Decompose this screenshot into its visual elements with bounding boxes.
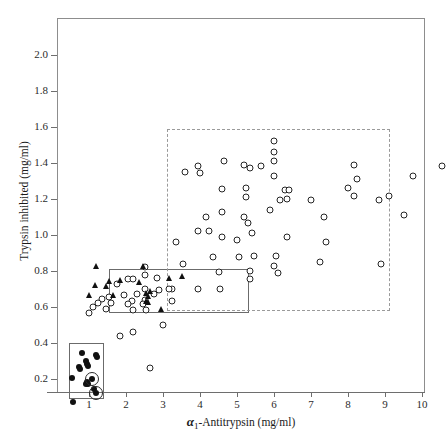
group-box-mm-box	[167, 129, 390, 311]
y-tick-1.4	[51, 163, 57, 164]
x-tick-4	[200, 392, 201, 397]
data-point-normal-MM-8	[271, 172, 278, 179]
data-point-heterozygote-MZ-24	[143, 306, 150, 313]
data-point-normal-MM-25	[376, 196, 383, 203]
data-point-heterozygote-MZ-18	[108, 300, 115, 307]
data-point-normal-MM-1	[271, 149, 278, 156]
data-point-normal-MM-51	[215, 268, 222, 275]
data-point-normal-MM-4	[195, 162, 202, 169]
data-point-heterozygote-triangle-16	[158, 306, 164, 312]
data-point-normal-MM-47	[271, 262, 278, 269]
y-tick-label-0.2: 0.2	[14, 372, 48, 384]
x-tick-10	[422, 392, 423, 397]
data-point-normal-MM-48	[317, 259, 324, 266]
data-point-normal-MM-33	[400, 212, 407, 219]
data-point-homozygote-ZZ-8	[69, 375, 75, 381]
data-point-normal-MM-11	[350, 161, 357, 168]
data-point-normal-MM-36	[219, 233, 226, 240]
data-point-normal-MM-20	[285, 187, 292, 194]
x-tick-label-5: 5	[222, 398, 252, 410]
data-point-normal-MM-27	[219, 208, 226, 215]
data-point-heterozygote-MZ-8	[165, 286, 172, 293]
data-point-normal-MM-57	[130, 329, 137, 336]
data-point-heterozygote-MZ-11	[121, 292, 128, 299]
data-point-normal-MM-55	[195, 286, 202, 293]
data-point-heterozygote-triangle-5	[136, 279, 142, 285]
x-tick-label-6: 6	[259, 398, 289, 410]
data-point-normal-MM-6	[258, 162, 265, 169]
x-tick-label-10: 10	[407, 398, 437, 410]
data-point-highlighted-ZZ-rings-1	[89, 386, 103, 400]
data-point-normal-MM-45	[209, 253, 216, 260]
data-point-normal-MM-31	[267, 206, 274, 213]
data-point-normal-MM-22	[308, 196, 315, 203]
data-point-normal-MM-12	[439, 162, 446, 169]
data-point-normal-MM-2	[271, 158, 278, 165]
y-tick-0.6	[51, 307, 57, 308]
data-point-normal-MM-24	[385, 193, 392, 200]
data-point-normal-MM-60	[117, 332, 124, 339]
data-point-heterozygote-triangle-8	[103, 283, 109, 289]
data-point-normal-MM-59	[147, 365, 154, 372]
y-tick-label-0.6: 0.6	[14, 300, 48, 312]
y-tick-0.2	[51, 379, 57, 380]
data-point-normal-MM-52	[246, 276, 253, 283]
data-point-heterozygote-triangle-11	[147, 288, 153, 294]
data-point-normal-MM-10	[197, 169, 204, 176]
x-tick-3	[163, 392, 164, 397]
data-point-normal-MM-34	[195, 228, 202, 235]
data-point-normal-MM-41	[322, 239, 329, 246]
x-axis-title-rest: -Antitrypsin (mg/ml)	[198, 416, 295, 428]
data-point-normal-MM-16	[243, 194, 250, 201]
data-point-heterozygote-triangle-12	[86, 292, 92, 298]
x-tick-label-2: 2	[111, 398, 141, 410]
data-point-heterozygote-MZ-23	[130, 306, 137, 313]
x-tick-label-7: 7	[296, 398, 326, 410]
x-tick-label-8: 8	[333, 398, 363, 410]
data-point-normal-MM-13	[354, 176, 361, 183]
y-tick-label-0.4: 0.4	[14, 336, 48, 348]
data-point-normal-MM-49	[378, 260, 385, 267]
data-point-normal-MM-32	[320, 214, 327, 221]
data-point-normal-MM-21	[276, 196, 283, 203]
data-point-heterozygote-MZ-2	[154, 275, 161, 282]
data-point-normal-MM-37	[234, 236, 241, 243]
y-tick-0.4	[51, 343, 57, 344]
data-point-heterozygote-MZ-9	[134, 291, 141, 298]
alpha-symbol: α	[187, 414, 194, 429]
data-point-normal-MM-56	[217, 286, 224, 293]
data-point-normal-MM-39	[172, 239, 179, 246]
x-tick-6	[274, 392, 275, 397]
data-point-normal-MM-38	[248, 230, 255, 237]
data-point-normal-MM-53	[274, 269, 281, 276]
data-point-homozygote-ZZ-15	[70, 399, 76, 405]
data-point-homozygote-ZZ-2	[94, 354, 100, 360]
x-tick-label-3: 3	[148, 398, 178, 410]
x-axis-title: α1-Antitrypsin (mg/ml)	[57, 414, 425, 431]
y-tick-1.6	[51, 127, 57, 128]
x-tick-label-4: 4	[185, 398, 215, 410]
y-tick-1.8	[51, 91, 57, 92]
data-point-heterozygote-MZ-16	[169, 297, 176, 304]
data-point-heterozygote-triangle-0	[93, 263, 99, 269]
x-tick-2	[126, 392, 127, 397]
data-point-normal-MM-26	[345, 185, 352, 192]
data-point-normal-MM-7	[246, 164, 253, 171]
data-point-homozygote-ZZ-7	[77, 366, 83, 372]
y-axis-title: Trypsin inhibited (mg/ml)	[18, 101, 30, 301]
y-tick-label-2.0: 2.0	[14, 48, 48, 60]
x-tick-label-9: 9	[370, 398, 400, 410]
data-point-highlighted-ZZ-rings-0	[85, 372, 99, 386]
data-point-normal-MM-3	[221, 158, 228, 165]
data-point-heterozygote-MZ-25	[86, 310, 93, 317]
data-point-normal-MM-42	[235, 253, 242, 260]
data-point-heterozygote-triangle-13	[110, 292, 116, 298]
data-point-homozygote-ZZ-0	[79, 350, 85, 356]
x-tick-9	[385, 392, 386, 397]
x-tick-7	[311, 392, 312, 397]
data-point-heterozygote-MZ-22	[102, 305, 109, 312]
y-tick-label-1.8: 1.8	[14, 84, 48, 96]
data-point-heterozygote-triangle-4	[166, 275, 172, 281]
x-tick-label-1: 1	[74, 398, 104, 410]
